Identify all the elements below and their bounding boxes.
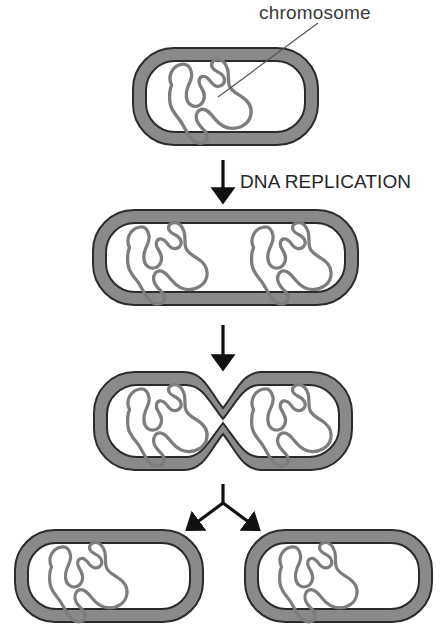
dna-replication-label: DNA REPLICATION [240,171,411,192]
diagram-canvas: chromosome DNA REPLICATION [0,0,446,642]
stage-parent-cell [133,48,318,145]
stage-replicated-cell [93,210,358,305]
binary-fission-diagram: chromosome DNA REPLICATION [0,0,446,642]
chromosome-label: chromosome [259,2,371,23]
arrow-division [196,484,250,523]
stage-daughter-cell-left [15,530,203,622]
stage-constricting-cell [94,372,352,470]
cytoplasm-constricting [107,385,339,457]
stage-daughter-cell-right [245,530,432,622]
